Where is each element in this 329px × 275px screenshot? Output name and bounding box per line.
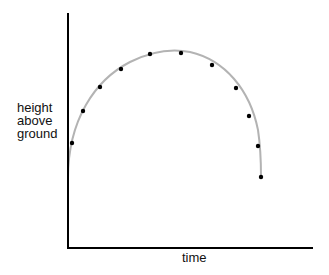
data-point [70, 141, 74, 145]
data-point [179, 51, 183, 55]
data-point [81, 109, 85, 113]
data-point [256, 144, 260, 148]
trajectory-curve [68, 50, 261, 178]
data-point [98, 85, 102, 89]
data-point [148, 52, 152, 56]
y-axis-label: height above ground [17, 101, 77, 140]
data-point [259, 175, 263, 179]
x-axis-label: time [182, 251, 207, 264]
data-point [119, 67, 123, 71]
data-point [234, 86, 238, 90]
y-axis-label-line: ground [17, 127, 77, 140]
data-point [210, 63, 214, 67]
data-points [70, 51, 263, 179]
data-point [247, 114, 251, 118]
